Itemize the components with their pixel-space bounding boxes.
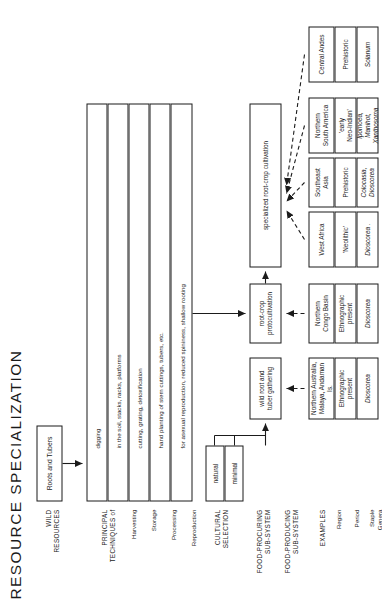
dashed-link-northern-south-america <box>286 125 304 193</box>
dashed-link-west-africa <box>286 210 304 239</box>
dashed-link-southeast-asia <box>286 182 304 201</box>
dashed-link-central-andes <box>286 54 304 185</box>
tie-natural-level <box>214 435 265 445</box>
